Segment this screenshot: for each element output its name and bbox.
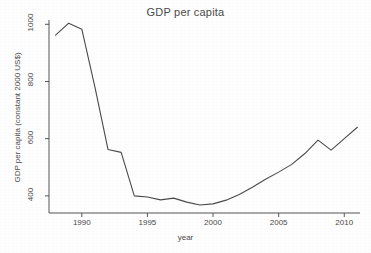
y-tick-label: 400	[26, 181, 35, 207]
chart-plot-area	[0, 0, 371, 253]
y-tick-label: 800	[26, 67, 35, 93]
y-tick-label: 1000	[26, 10, 35, 36]
y-axis-ticks	[45, 24, 49, 196]
data-series-line	[56, 23, 358, 205]
x-tick-label: 2010	[324, 218, 364, 227]
x-tick-label: 2005	[259, 218, 299, 227]
x-tick-label: 2000	[193, 218, 233, 227]
x-axis-ticks	[82, 213, 344, 217]
x-tick-label: 1990	[62, 218, 102, 227]
y-tick-label: 600	[26, 124, 35, 150]
axis-lines	[49, 20, 360, 213]
x-tick-label: 1995	[127, 218, 167, 227]
chart-container: GDP per capita GDP per capita (constant …	[0, 0, 371, 253]
